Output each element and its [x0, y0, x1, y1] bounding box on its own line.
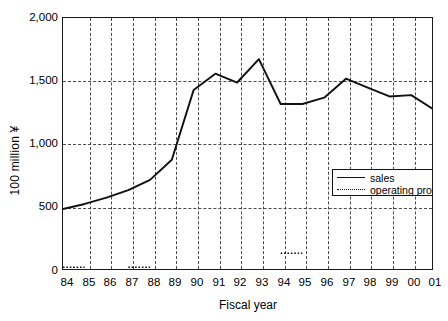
x-tick-label: 96 [315, 276, 339, 288]
x-axis-title: Fiscal year [62, 298, 434, 312]
x-tick-label: 98 [358, 276, 382, 288]
plot-area: sales operating profit [62, 17, 433, 270]
y-tick-label: 1,000 [12, 137, 58, 149]
legend-entry-operating-profit: operating profit [337, 184, 433, 196]
chart-figure: 100 million ¥ 2,000 1,500 1,000 500 0 [0, 0, 448, 321]
y-tick-label: 500 [12, 200, 58, 212]
x-tick-label: 92 [228, 276, 252, 288]
legend-label: operating profit [370, 184, 433, 196]
series-layer [63, 18, 433, 270]
x-tick-label: 95 [293, 276, 317, 288]
x-tick-label: 89 [163, 276, 187, 288]
x-tick-label: 01 [423, 276, 447, 288]
y-tick-label: 0 [12, 264, 58, 276]
x-tick-label: 86 [98, 276, 122, 288]
chart-legend[interactable]: sales operating profit [332, 169, 433, 196]
x-tick-label: 84 [55, 276, 79, 288]
series-line-operating-profit [63, 253, 302, 267]
legend-label: sales [370, 172, 395, 184]
x-tick-label: 90 [185, 276, 209, 288]
x-tick-label: 87 [120, 276, 144, 288]
y-tick-label: 1,500 [12, 74, 58, 86]
y-tick-label: 2,000 [12, 11, 58, 23]
legend-entry-sales: sales [337, 172, 433, 184]
x-tick-label: 93 [250, 276, 274, 288]
x-tick-label: 99 [380, 276, 404, 288]
solid-line-key-icon [337, 174, 365, 182]
dotted-line-key-icon [337, 186, 365, 194]
